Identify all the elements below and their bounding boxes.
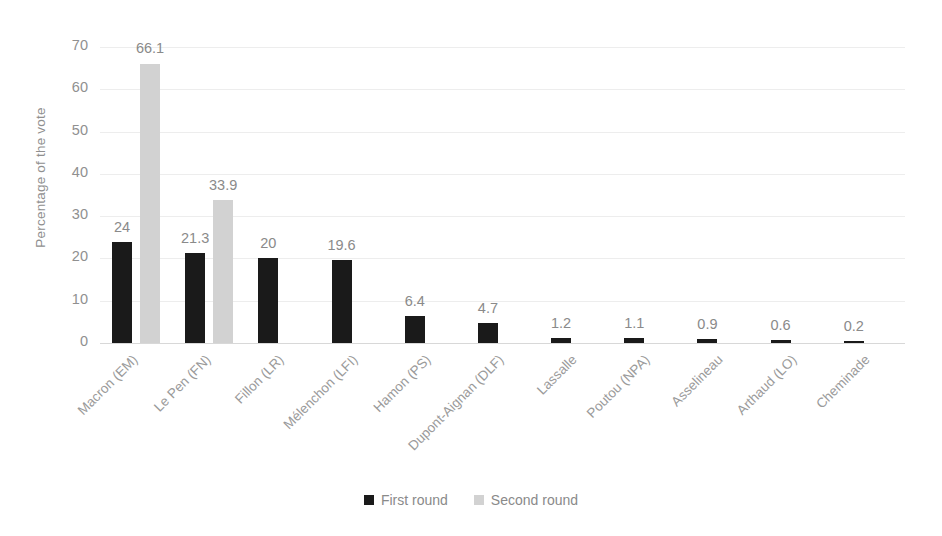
legend-swatch-icon [364,495,374,505]
data-label-first-round: 24 [92,219,152,235]
data-label-first-round: 1.1 [604,315,664,331]
data-label-first-round: 19.6 [312,237,372,253]
data-label-first-round: 0.9 [677,316,737,332]
data-label-first-round: 0.6 [751,317,811,333]
data-label-first-round: 20 [238,235,298,251]
data-label-first-round: 21.3 [165,230,225,246]
legend-label: First round [381,492,448,508]
chart-legend: First roundSecond round [0,492,942,508]
legend-swatch-icon [474,495,484,505]
bar-chart: Percentage of the vote 010203040506070 M… [0,0,942,536]
data-label-first-round: 1.2 [531,315,591,331]
data-label-second-round: 33.9 [193,177,253,193]
data-label-second-round: 66.1 [120,40,180,56]
data-label-first-round: 6.4 [385,293,445,309]
data-label-first-round: 4.7 [458,300,518,316]
x-axis-tick-labels: Macron (EM)Le Pen (FN)Fillon (LR)Mélench… [0,0,942,536]
legend-label: Second round [491,492,578,508]
data-label-first-round: 0.2 [824,318,884,334]
legend-item[interactable]: Second round [474,492,578,508]
legend-item[interactable]: First round [364,492,448,508]
